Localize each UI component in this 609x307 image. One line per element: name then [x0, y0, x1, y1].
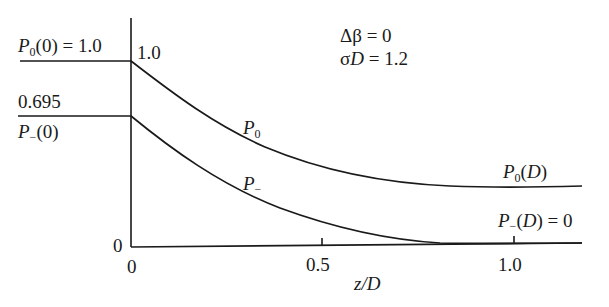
param-sigma-d: σD = 1.2 [340, 48, 408, 69]
y-tick-label-0: 0 [113, 235, 123, 256]
p0-curve [20, 61, 582, 187]
y-tick-label-1.0: 1.0 [137, 42, 161, 63]
p0-final-label: P0(D) [502, 161, 547, 185]
x-tick-label-0.5: 0.5 [306, 254, 330, 275]
pminus-initial-label: P−(0) [17, 121, 59, 144]
p0-initial-label: P0(0) = 1.0 [17, 35, 102, 59]
x-tick-label-0: 0 [127, 256, 137, 277]
pminus-curve-label: P− [242, 173, 262, 196]
x-axis-label: z/D [353, 273, 381, 294]
x-tick-label-1.0: 1.0 [498, 254, 522, 275]
param-delta-beta: Δβ = 0 [340, 25, 392, 46]
chart-figure: P0(0) = 1.0 1.0 0.695 P−(0) Δβ = 0 σD = … [0, 0, 609, 307]
p0-curve-label: P0 [242, 117, 261, 141]
pminus-initial-value: 0.695 [18, 91, 61, 112]
pminus-final-label: P−(D) = 0 [497, 210, 573, 233]
